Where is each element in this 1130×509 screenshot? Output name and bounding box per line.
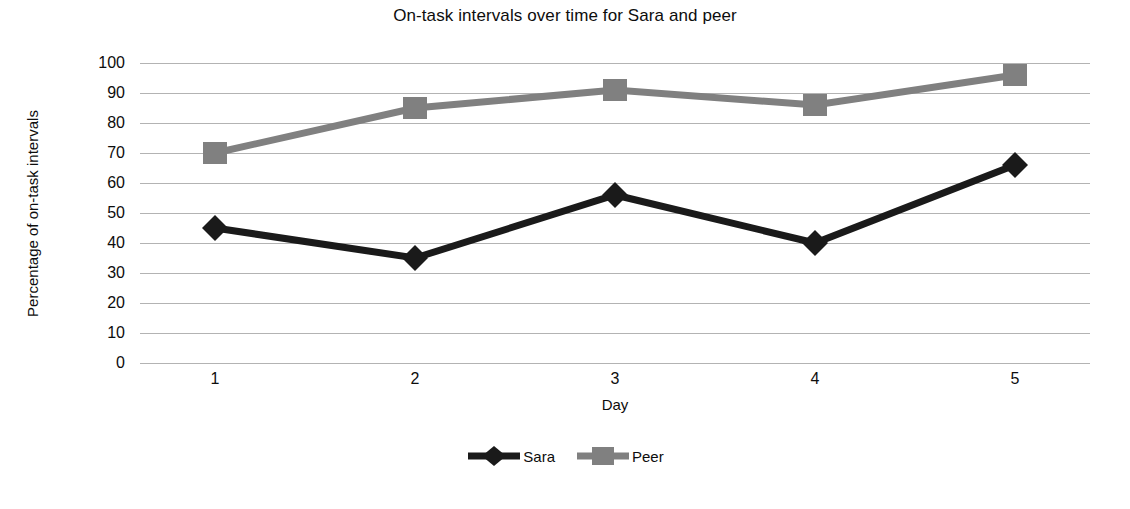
data-point-peer <box>403 97 427 119</box>
series-line-sara <box>215 165 1015 258</box>
data-point-peer <box>803 94 827 116</box>
plot-area <box>0 0 1130 509</box>
data-point-sara <box>602 182 628 208</box>
x-tick-label: 3 <box>585 371 645 387</box>
legend-entry-sara[interactable]: Sara <box>466 446 555 466</box>
gridlines <box>140 63 1090 363</box>
legend-marker-diamond-icon <box>466 446 522 466</box>
chart-legend: SaraPeer <box>0 446 1130 466</box>
data-point-sara <box>1002 152 1028 178</box>
x-tick-label: 1 <box>185 371 245 387</box>
legend-label: Peer <box>632 448 664 465</box>
data-series-layer <box>202 64 1028 271</box>
legend-entry-peer[interactable]: Peer <box>575 446 664 466</box>
data-point-peer <box>1003 64 1027 86</box>
legend-label: Sara <box>523 448 555 465</box>
data-point-sara <box>802 230 828 256</box>
data-point-peer <box>203 142 227 164</box>
data-point-sara <box>402 245 428 271</box>
x-tick-label: 2 <box>385 371 445 387</box>
x-axis-title: Day <box>140 396 1090 413</box>
legend-marker-square-icon <box>575 446 631 466</box>
data-point-sara <box>202 215 228 241</box>
x-tick-label: 4 <box>785 371 845 387</box>
x-tick-label: 5 <box>985 371 1045 387</box>
line-chart: On-task intervals over time for Sara and… <box>0 0 1130 509</box>
data-point-peer <box>603 79 627 101</box>
